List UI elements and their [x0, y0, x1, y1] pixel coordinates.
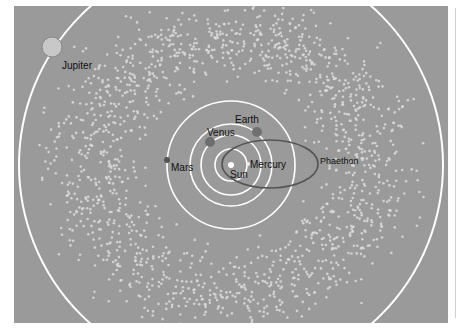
planet-venus-icon — [205, 137, 215, 147]
label-jupiter: Jupiter — [62, 61, 92, 71]
planet-jupiter-icon — [42, 37, 62, 57]
planet-sun-icon — [228, 162, 234, 168]
page-edge-divider — [455, 8, 456, 318]
label-earth: Earth — [235, 115, 259, 125]
label-phaethon: Phaethon — [320, 157, 359, 166]
label-sun: Sun — [230, 170, 248, 180]
label-venus: Venus — [207, 128, 235, 138]
label-mars: Mars — [171, 163, 193, 173]
label-mercury: Mercury — [250, 160, 286, 170]
solar-system-diagram: Jupiter Mars Venus Earth Mercury Sun Pha… — [14, 6, 448, 323]
planet-earth-icon — [252, 127, 262, 137]
planet-mars-icon — [164, 157, 170, 163]
diagram-canvas — [14, 6, 448, 323]
